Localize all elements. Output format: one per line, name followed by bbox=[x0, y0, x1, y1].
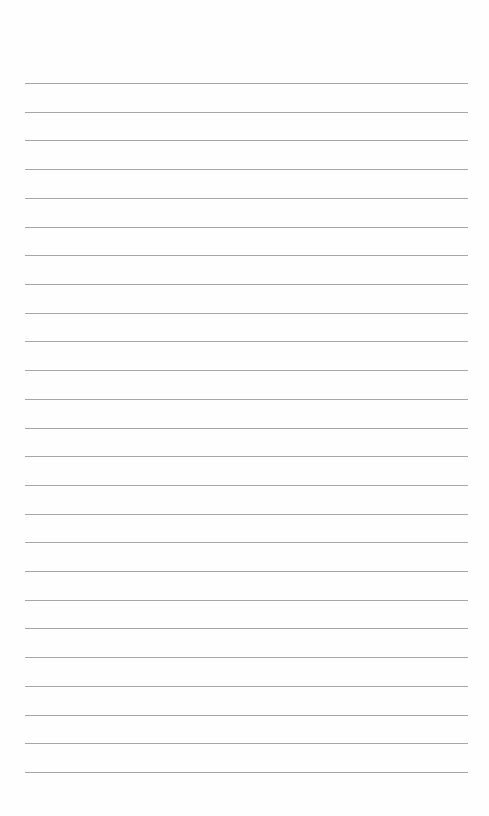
ruled-line bbox=[25, 255, 468, 256]
lined-paper-page bbox=[0, 0, 489, 816]
ruled-line bbox=[25, 657, 468, 658]
ruled-line bbox=[25, 428, 468, 429]
ruled-line bbox=[25, 600, 468, 601]
ruled-line bbox=[25, 341, 468, 342]
ruled-line bbox=[25, 227, 468, 228]
ruled-line bbox=[25, 514, 468, 515]
ruled-line bbox=[25, 485, 468, 486]
ruled-line bbox=[25, 686, 468, 687]
ruled-line bbox=[25, 169, 468, 170]
ruled-line bbox=[25, 743, 468, 744]
ruled-line bbox=[25, 628, 468, 629]
ruled-line bbox=[25, 313, 468, 314]
ruled-line bbox=[25, 772, 468, 773]
ruled-line bbox=[25, 571, 468, 572]
ruled-line bbox=[25, 140, 468, 141]
ruled-line bbox=[25, 456, 468, 457]
ruled-line bbox=[25, 399, 468, 400]
ruled-line bbox=[25, 370, 468, 371]
ruled-line bbox=[25, 284, 468, 285]
ruled-line bbox=[25, 715, 468, 716]
ruled-line bbox=[25, 198, 468, 199]
ruled-line bbox=[25, 542, 468, 543]
ruled-line bbox=[25, 112, 468, 113]
ruled-line bbox=[25, 83, 468, 84]
